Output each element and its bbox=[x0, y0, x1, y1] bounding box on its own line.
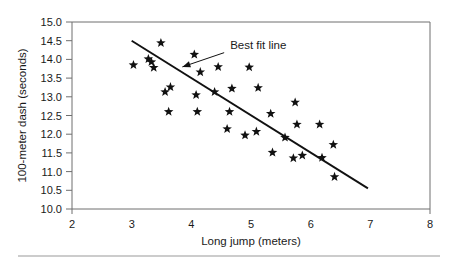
figure-background bbox=[0, 0, 451, 267]
y-tick-label: 13.5 bbox=[41, 72, 62, 84]
y-tick-label: 13.0 bbox=[41, 91, 62, 103]
y-tick-label: 10.0 bbox=[41, 203, 62, 215]
x-axis-title: Long jump (meters) bbox=[201, 235, 301, 247]
x-tick-label: 8 bbox=[427, 218, 433, 230]
y-tick-label: 14.0 bbox=[41, 53, 62, 65]
y-tick-label: 12.0 bbox=[41, 128, 62, 140]
x-tick-label: 6 bbox=[308, 218, 314, 230]
y-tick-label: 10.5 bbox=[41, 184, 62, 196]
y-axis-title: 100-meter dash (seconds) bbox=[16, 48, 28, 182]
x-tick-label: 2 bbox=[69, 218, 75, 230]
y-tick-label: 12.5 bbox=[41, 110, 62, 122]
x-tick-label: 3 bbox=[129, 218, 135, 230]
chart-figure: 15.0 14.5 14.0 13.5 13.0 12.5 12.0 11.5 … bbox=[0, 0, 451, 267]
y-tick-label: 15.0 bbox=[41, 16, 62, 28]
x-tick-label: 5 bbox=[248, 218, 254, 230]
y-tick-label: 11.0 bbox=[41, 166, 62, 178]
x-tick-label: 4 bbox=[188, 218, 194, 230]
y-tick-label: 14.5 bbox=[41, 35, 62, 47]
y-tick-label: 11.5 bbox=[41, 147, 62, 159]
scatter-plot-svg: 15.0 14.5 14.0 13.5 13.0 12.5 12.0 11.5 … bbox=[0, 0, 451, 267]
annotation-label: Best fit line bbox=[230, 39, 286, 51]
x-tick-label: 7 bbox=[367, 218, 373, 230]
